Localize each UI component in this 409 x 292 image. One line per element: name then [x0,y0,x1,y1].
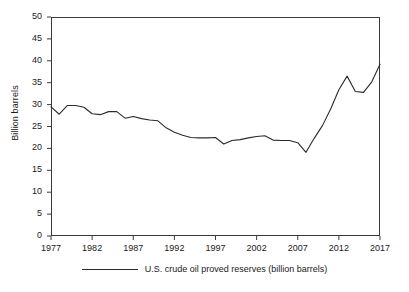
x-tick-label: 1977 [34,243,68,253]
y-tick-label: 30 [16,99,42,109]
chart-legend: U.S. crude oil proved reserves (billion … [0,264,409,274]
y-tick-label: 45 [16,33,42,43]
y-tick-label: 20 [16,142,42,152]
x-tick-label: 2017 [363,243,397,253]
y-tick-label: 10 [16,186,42,196]
x-tick-label: 1997 [199,243,233,253]
y-tick-label: 40 [16,55,42,65]
x-tick-label: 2002 [240,243,274,253]
x-tick-label: 1987 [116,243,150,253]
y-tick-label: 35 [16,77,42,87]
x-tick-label: 1992 [157,243,191,253]
y-tick-label: 25 [16,121,42,131]
legend-line-swatch [82,269,138,270]
x-tick-label: 1982 [75,243,109,253]
plot-area [51,17,380,236]
legend-label: U.S. crude oil proved reserves (billion … [145,264,328,274]
y-tick-label: 15 [16,164,42,174]
y-tick-label: 5 [16,208,42,218]
x-tick-label: 2012 [322,243,356,253]
y-tick-label: 50 [16,11,42,21]
chart-figure: Billion barrels 05101520253035404550 197… [0,0,409,292]
x-tick-label: 2007 [281,243,315,253]
y-tick-label: 0 [16,230,42,240]
